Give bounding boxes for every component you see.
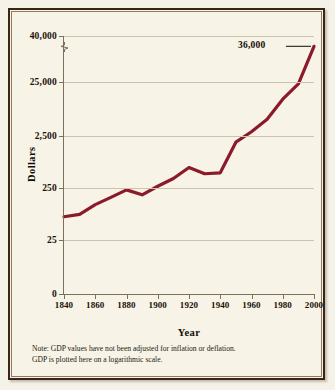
x-tick-label-1920: 1920 [180, 300, 198, 310]
y-tick-2500 [59, 136, 64, 137]
plot-area: 0252502,50025,00040,000 1840186018801900… [64, 36, 314, 294]
chart-frame: Dollars 0252502,50025,00040,000 18401860… [8, 8, 325, 380]
y-tick-label-2500: 2,500 [35, 131, 57, 141]
y-tick-25 [59, 240, 64, 241]
x-tick-1880 [127, 294, 128, 299]
y-tick-label-0: 0 [52, 289, 57, 299]
y-axis-line [63, 36, 64, 294]
y-tick-label-250: 250 [42, 183, 57, 193]
y-tick-250 [59, 188, 64, 189]
x-tick-2000 [314, 294, 315, 299]
y-tick-label-25: 25 [47, 235, 57, 245]
gridline-25000 [64, 82, 314, 83]
gridline-40000 [64, 36, 314, 37]
x-tick-1940 [220, 294, 221, 299]
x-tick-1900 [158, 294, 159, 299]
x-tick-1980 [283, 294, 284, 299]
y-tick-40000 [59, 36, 64, 37]
y-tick-label-25000: 25,000 [30, 77, 57, 87]
y-tick-25000 [59, 82, 64, 83]
data-series-line [64, 36, 314, 294]
gridline-2500 [64, 136, 314, 137]
x-tick-label-1840: 1840 [55, 300, 73, 310]
x-tick-1860 [95, 294, 96, 299]
gridline-25 [64, 240, 314, 241]
x-tick-label-1860: 1860 [86, 300, 104, 310]
note-line-2: GDP is plotted here on a logarithmic sca… [32, 355, 312, 366]
x-tick-label-1940: 1940 [211, 300, 229, 310]
note-line-1: Note: GDP values have not been adjusted … [32, 344, 312, 355]
figure-canvas: Dollars 0252502,50025,00040,000 18401860… [0, 0, 335, 390]
x-tick-1840 [64, 294, 65, 299]
x-tick-1960 [252, 294, 253, 299]
annotation-label-36000: 36,000 [238, 40, 265, 50]
series-polyline [64, 46, 314, 216]
note-separator [22, 337, 311, 338]
x-tick-label-1960: 1960 [242, 300, 260, 310]
x-tick-1920 [189, 294, 190, 299]
x-tick-label-1980: 1980 [274, 300, 292, 310]
y-tick-label-40000: 40,000 [30, 31, 57, 41]
x-tick-label-1900: 1900 [149, 300, 167, 310]
x-tick-label-1880: 1880 [117, 300, 135, 310]
axis-break-icon [60, 42, 69, 52]
chart-note: Note: GDP values have not been adjusted … [32, 344, 312, 366]
gridline-250 [64, 188, 314, 189]
x-tick-label-2000: 2000 [305, 300, 323, 310]
y-axis-title: Dollars [26, 147, 37, 182]
